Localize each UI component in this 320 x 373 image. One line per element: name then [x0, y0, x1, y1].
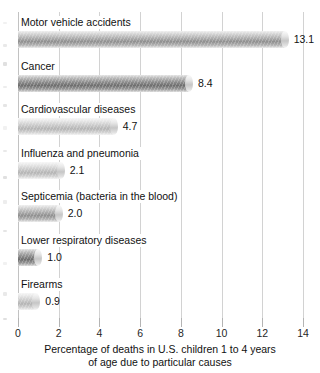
- bar-chart-figure: Motor vehicle accidents13.1Cancer8.4Card…: [0, 0, 320, 373]
- bar-end-cap: [34, 249, 42, 266]
- gridline-8: [181, 12, 182, 318]
- caption-line-1: Percentage of deaths in U.S. children 1 …: [0, 343, 320, 356]
- category-label: Cardiovascular diseases: [20, 103, 138, 116]
- tick-mark-10: [222, 318, 223, 327]
- tick-mark-12: [262, 318, 263, 327]
- gridline-6: [140, 12, 141, 318]
- x-axis-tick-labels: 02468101214: [0, 327, 320, 341]
- bar: [18, 118, 114, 135]
- bar: [18, 205, 59, 222]
- bar-value-label: 1.0: [47, 251, 62, 264]
- bar: [18, 75, 189, 92]
- bar: [18, 293, 36, 310]
- axis-tick-marks: [18, 318, 303, 327]
- tick-label-10: 10: [207, 327, 237, 340]
- bar-body: [18, 118, 114, 135]
- gridline-12: [262, 12, 263, 318]
- bar-end-cap: [57, 162, 65, 179]
- tick-label-4: 4: [84, 327, 114, 340]
- bar: [18, 31, 285, 48]
- bar-end-cap: [55, 205, 63, 222]
- category-label: Motor vehicle accidents: [20, 16, 134, 29]
- bar-body: [18, 205, 59, 222]
- tick-mark-6: [140, 318, 141, 327]
- bar: [18, 162, 61, 179]
- tick-label-8: 8: [166, 327, 196, 340]
- tick-mark-8: [181, 318, 182, 327]
- bar-value-label: 0.9: [45, 295, 60, 308]
- bar-end-cap: [32, 293, 40, 310]
- bar-value-label: 4.7: [123, 120, 138, 133]
- bar-value-label: 13.1: [294, 33, 314, 46]
- bar-body: [18, 31, 285, 48]
- bar-end-cap: [281, 31, 289, 48]
- gridline-10: [222, 12, 223, 318]
- bar: [18, 249, 38, 266]
- caption-line-2: of age due to particular causes: [0, 356, 320, 369]
- bar-value-label: 8.4: [198, 77, 213, 90]
- tick-label-12: 12: [247, 327, 277, 340]
- gridline-4: [99, 12, 100, 318]
- category-label: Cancer: [20, 60, 58, 73]
- category-label: Lower respiratory diseases: [20, 234, 149, 247]
- tick-label-14: 14: [288, 327, 318, 340]
- tick-mark-2: [59, 318, 60, 327]
- bar-body: [18, 162, 61, 179]
- bar-end-cap: [110, 118, 118, 135]
- bar-value-label: 2.0: [68, 207, 83, 220]
- tick-label-0: 0: [3, 327, 33, 340]
- tick-mark-0: [18, 318, 19, 327]
- plot-area: Motor vehicle accidents13.1Cancer8.4Card…: [18, 12, 303, 318]
- category-label: Firearms: [20, 278, 65, 291]
- category-label: Septicemia (bacteria in the blood): [20, 190, 180, 203]
- gridline-14: [303, 12, 304, 318]
- tick-label-2: 2: [44, 327, 74, 340]
- tick-mark-4: [99, 318, 100, 327]
- tick-label-6: 6: [125, 327, 155, 340]
- tick-mark-14: [303, 318, 304, 327]
- x-axis-caption: Percentage of deaths in U.S. children 1 …: [0, 343, 320, 369]
- bar-end-cap: [185, 75, 193, 92]
- bar-value-label: 2.1: [70, 164, 85, 177]
- bar-body: [18, 75, 189, 92]
- category-label: Influenza and pneumonia: [20, 147, 142, 160]
